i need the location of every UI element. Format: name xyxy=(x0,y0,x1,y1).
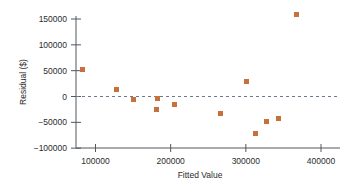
y-tick-label: 50000 xyxy=(43,66,67,76)
residual-plot-figure: −100000−50000050000100000150000 Residual… xyxy=(0,0,353,190)
x-tick-label: 100000 xyxy=(81,156,110,166)
y-tick-label: 0 xyxy=(62,92,67,102)
data-point xyxy=(218,111,223,116)
y-axis: −100000−50000050000100000150000 Residual… xyxy=(18,14,81,153)
y-tick-label: −50000 xyxy=(38,117,67,127)
data-point xyxy=(154,107,159,112)
y-axis-tick-labels: −100000−50000050000100000150000 xyxy=(34,14,68,153)
x-axis: 100000200000300000400000 Fitted Value xyxy=(76,144,340,180)
y-tick-label: 150000 xyxy=(39,14,68,24)
x-tick-label: 200000 xyxy=(156,156,185,166)
x-axis-tick-labels: 100000200000300000400000 xyxy=(81,156,335,166)
data-point-group xyxy=(80,12,299,135)
data-point xyxy=(264,119,269,124)
x-tick-label: 300000 xyxy=(232,156,261,166)
data-point xyxy=(172,102,177,107)
y-axis-title: Residual ($) xyxy=(18,59,28,105)
data-point xyxy=(276,116,281,121)
x-axis-title: Fitted Value xyxy=(178,170,223,180)
scatter-plot-canvas: −100000−50000050000100000150000 Residual… xyxy=(0,0,353,190)
data-point xyxy=(131,97,136,102)
data-point xyxy=(244,79,249,84)
data-point xyxy=(114,87,119,92)
data-point xyxy=(155,96,160,101)
y-tick-label: 100000 xyxy=(39,40,68,50)
x-tick-label: 400000 xyxy=(307,156,336,166)
data-point xyxy=(253,131,258,136)
data-point xyxy=(80,67,85,72)
y-tick-label: −100000 xyxy=(34,143,68,153)
data-point xyxy=(294,12,299,17)
